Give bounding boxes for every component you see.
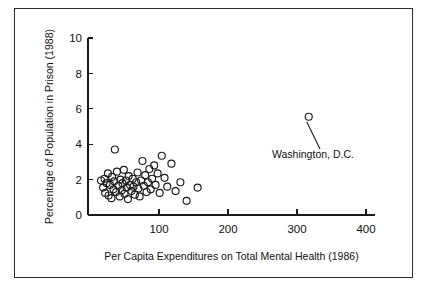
data-point	[154, 170, 161, 177]
data-point	[177, 179, 184, 186]
data-point	[113, 168, 120, 175]
x-axis-title: Per Capita Expenditures on Total Mental …	[104, 250, 358, 262]
y-tick-label: 2	[76, 174, 82, 186]
y-axis-ticks: 0246810	[69, 32, 93, 221]
y-tick-label: 0	[76, 209, 82, 221]
data-point	[139, 158, 146, 165]
x-tick-label: 200	[218, 223, 237, 235]
data-point	[120, 166, 127, 173]
annotation-group: Washington, D.C.	[272, 113, 354, 160]
y-tick-label: 10	[69, 32, 82, 44]
data-point	[142, 172, 149, 179]
y-tick-label: 6	[76, 103, 82, 115]
data-point	[172, 188, 179, 195]
y-tick-label: 4	[76, 138, 83, 150]
figure-root: 0246810 100200300400 Washington, D.C. Pe…	[0, 0, 428, 287]
data-point	[168, 160, 175, 167]
annotation-label: Washington, D.C.	[272, 148, 354, 160]
data-point-group	[98, 146, 202, 204]
data-point	[164, 183, 171, 190]
x-tick-label: 400	[356, 223, 375, 235]
y-axis-title: Percentage of Population in Prison (1988…	[43, 29, 55, 224]
data-point	[151, 162, 158, 169]
data-point	[124, 196, 131, 203]
data-point	[158, 152, 165, 159]
data-point	[111, 146, 118, 153]
data-point	[194, 184, 201, 191]
data-point	[152, 181, 159, 188]
data-point	[134, 169, 141, 176]
scatter-plot: 0246810 100200300400 Washington, D.C. Pe…	[0, 0, 428, 287]
y-tick-label: 8	[76, 68, 82, 80]
x-axis-ticks: 100200300400	[149, 209, 375, 235]
x-tick-label: 100	[149, 223, 168, 235]
annotation-leader-line	[307, 122, 320, 149]
data-point	[161, 174, 168, 181]
data-point	[156, 189, 163, 196]
data-point	[183, 197, 190, 204]
x-tick-label: 300	[287, 223, 306, 235]
data-point-outlier	[305, 113, 312, 120]
data-point	[146, 165, 153, 172]
